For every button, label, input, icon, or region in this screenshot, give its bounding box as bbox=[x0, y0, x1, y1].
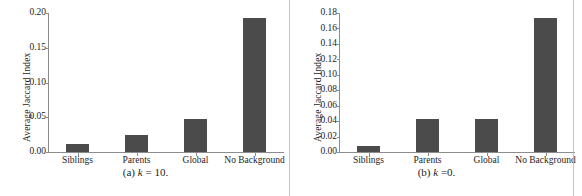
subcaption-b: (b) k =0. bbox=[291, 166, 582, 178]
bar bbox=[357, 146, 381, 152]
y-tick-label: 0.15 bbox=[29, 43, 46, 53]
x-tick-label: No Background bbox=[219, 155, 290, 166]
subcaption-a: (a) k = 10. bbox=[0, 166, 291, 178]
y-tick-label: 0.10 bbox=[29, 78, 46, 88]
chart-panel-b: Average Jaccard Index 0.000.020.040.060.… bbox=[291, 0, 582, 196]
bar bbox=[66, 144, 90, 152]
bar bbox=[475, 119, 499, 152]
y-tick-label: 0.12 bbox=[320, 55, 337, 65]
subcaption-b-value: =0. bbox=[441, 166, 455, 178]
subcaption-a-variable: k bbox=[138, 166, 143, 178]
figure-right-border-line bbox=[573, 0, 574, 196]
bar bbox=[243, 18, 267, 152]
subcaption-a-value: = 10. bbox=[145, 166, 168, 178]
y-axis-label-a: Average Jaccard Index bbox=[22, 53, 32, 142]
y-tick-label: 0.10 bbox=[320, 70, 337, 80]
y-axis-line-a bbox=[48, 13, 49, 153]
subcaption-b-variable: k bbox=[433, 166, 438, 178]
x-axis-line-b bbox=[339, 152, 575, 153]
y-tick-label: 0.18 bbox=[320, 8, 337, 18]
panel-separator-line bbox=[289, 0, 290, 196]
y-tick-label: 0.16 bbox=[320, 24, 337, 34]
y-tick-label: 0.06 bbox=[320, 101, 337, 111]
chart-panel-a: Average Jaccard Index 0.000.050.100.150.… bbox=[0, 0, 291, 196]
bar bbox=[416, 119, 440, 152]
y-tick-label: 0.14 bbox=[320, 39, 337, 49]
x-axis-line-a bbox=[48, 152, 284, 153]
y-tick-label: 0.08 bbox=[320, 85, 337, 95]
subcaption-a-prefix: (a) bbox=[123, 166, 135, 178]
y-axis-label-b: Average Jaccard Index bbox=[313, 53, 323, 142]
y-tick-label: 0.20 bbox=[29, 8, 46, 18]
y-tick-label: 0.04 bbox=[320, 116, 337, 126]
subcaption-b-prefix: (b) bbox=[418, 166, 431, 178]
bar bbox=[534, 18, 558, 152]
figure-two-bar-charts: Average Jaccard Index 0.000.050.100.150.… bbox=[0, 0, 582, 196]
y-tick-label: 0.05 bbox=[29, 112, 46, 122]
bar bbox=[184, 119, 208, 152]
y-tick-label: 0.02 bbox=[320, 132, 337, 142]
bar bbox=[125, 135, 149, 152]
y-axis-line-b bbox=[339, 13, 340, 153]
x-tick-label: No Background bbox=[510, 155, 581, 166]
